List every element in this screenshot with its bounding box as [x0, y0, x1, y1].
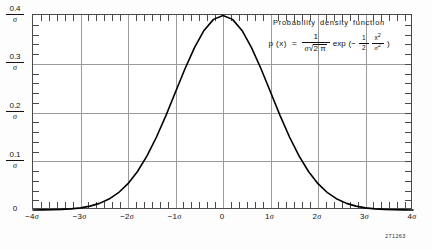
x-tick-unit: σ [270, 212, 274, 221]
x-tick-unit: σ [82, 212, 86, 221]
formula-paren-close: ) [387, 39, 390, 48]
radicand: 2 π [313, 44, 327, 53]
x-tick-label--2sigma: −2σ [107, 212, 147, 221]
half-denominator: 2 [359, 44, 369, 52]
y-tick-denominator: σ [2, 161, 28, 170]
y-tick-label-0.3: 0.3 σ [2, 53, 28, 72]
x-tick-label-0: 0 [202, 212, 242, 221]
x-tick-unit: σ [412, 212, 416, 221]
y-tick-numerator: 0.3 [2, 53, 28, 62]
x-tick-label-3sigma: 3σ [345, 212, 385, 221]
y-tick-numerator: 0.2 [2, 102, 28, 111]
chart-title: Probability density function [236, 18, 422, 27]
formula-denominator: σ√2 π [302, 43, 330, 53]
formula-numerator: 1 [310, 33, 320, 42]
y-tick-label-0.4: 0.4 σ [2, 5, 28, 24]
x-tick-label--3sigma: −3σ [60, 212, 100, 221]
exponent: 2 [378, 42, 381, 48]
sqrt-group: √2 π [309, 44, 327, 53]
y-tick-numerator: 0.1 [2, 151, 28, 160]
x-tick-label-4sigma: 4σ [392, 212, 432, 221]
x-tick-value: −4 [25, 212, 35, 221]
y-tick-label-0.2: 0.2 σ [2, 102, 28, 121]
x-tick-label-2sigma: 2σ [297, 212, 337, 221]
x-tick-value: 0 [220, 212, 225, 221]
x-tick-unit: σ [365, 212, 369, 221]
formula-main-fraction: 1 σ√2 π [302, 33, 330, 53]
x-tick-unit: σ [317, 212, 321, 221]
x-tick-unit: σ [35, 212, 39, 221]
formula-paren-open: (− [349, 39, 356, 48]
half-numerator: 1 [359, 35, 369, 43]
x-tick-unit: σ [177, 212, 181, 221]
x-tick-label--4sigma: −4σ [12, 212, 52, 221]
formula-one-half: 1 2 [359, 35, 369, 51]
exponent: 2 [378, 32, 381, 38]
formula-x-squared-over-sigma-squared: x2 σ2 [372, 35, 384, 51]
probability-density-figure: 0.4 σ 0.3 σ 0.2 σ 0.1 σ 0 −4σ −3σ −2σ −1… [0, 0, 432, 250]
y-tick-denominator: σ [2, 112, 28, 121]
y-tick-label-0.1: 0.1 σ [2, 151, 28, 170]
x-tick-label-1sigma: 1σ [250, 212, 290, 221]
annotation-block: Probability density function p (x) = 1 σ… [236, 18, 422, 53]
x-tick-label--1sigma: −1σ [155, 212, 195, 221]
x-tick-value: −2 [120, 212, 130, 221]
y-tick-denominator: σ [2, 15, 28, 24]
x-tick-value: −3 [73, 212, 83, 221]
plate-number: 271263 [385, 233, 406, 239]
x-tick-unit: σ [130, 212, 134, 221]
formula-lhs: p (x) [268, 39, 287, 48]
x-tick-value: −1 [168, 212, 178, 221]
formula-equals: = [292, 39, 297, 48]
y-tick-numerator: 0.4 [2, 5, 28, 14]
formula-exp: exp [333, 39, 346, 48]
y-tick-denominator: σ [2, 63, 28, 72]
formula: p (x) = 1 σ√2 π exp (− 1 2 x2 σ2 ) [236, 33, 422, 53]
sigma-squared-denominator: σ2 [372, 44, 384, 52]
